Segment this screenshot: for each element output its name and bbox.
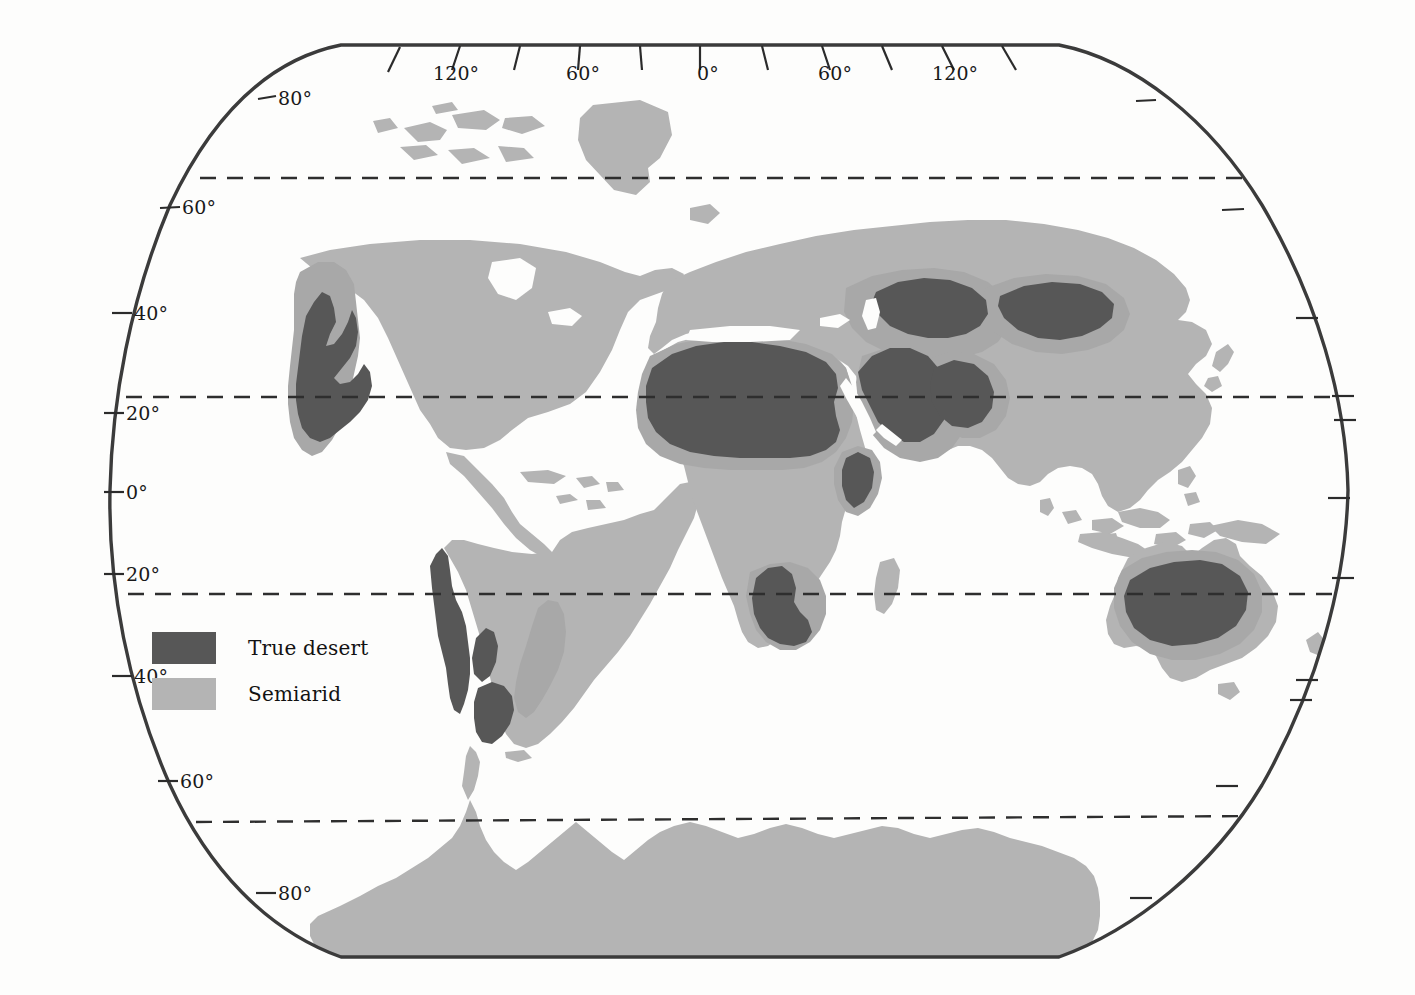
antarctic-circle-line [196, 816, 1268, 822]
legend-label-true-desert: True desert [248, 636, 369, 660]
legend-label-semiarid: Semiarid [248, 682, 341, 706]
world-desert-map-figure: 120° 60° 0° 60° 120° 80° 60° 40° 20° 0° … [0, 0, 1415, 995]
map-canvas [0, 0, 1415, 995]
landmass-madagascar [874, 558, 900, 614]
lon-tick [388, 47, 400, 72]
landmass-japan [1204, 344, 1234, 392]
latitude-label-s20: 20° [126, 563, 160, 585]
true-desert-north-america [296, 292, 372, 442]
map-legend: True desert Semiarid [152, 630, 369, 722]
longitude-label-0: 0° [697, 62, 719, 84]
true-desert-swatch [152, 632, 216, 664]
latitude-label-equator: 0° [126, 481, 148, 503]
latitude-ticks-right [1130, 100, 1356, 898]
landmass-iceland [690, 204, 720, 224]
map-shape-layer [126, 100, 1346, 958]
longitude-label-60w: 60° [566, 62, 600, 84]
arctic-islands [373, 102, 545, 164]
antarctic-peninsula [462, 746, 480, 800]
latitude-label-n40: 40° [134, 302, 168, 324]
semiarid-swatch [152, 678, 216, 710]
landmass-tasmania [1218, 682, 1240, 700]
lon-tick [514, 46, 520, 70]
lon-tick [1002, 46, 1016, 70]
lat-tick-n80 [258, 96, 276, 99]
latitude-label-s80: 80° [278, 882, 312, 904]
lon-tick [640, 46, 642, 70]
lat-tick-right [1136, 100, 1156, 101]
lat-tick-n60 [160, 207, 180, 208]
landmass-caribbean [520, 470, 624, 510]
true-desert-sahara [646, 342, 840, 458]
latitude-label-n80: 80° [278, 87, 312, 109]
longitude-label-120e: 120° [932, 62, 978, 84]
longitude-label-120w: 120° [433, 62, 479, 84]
lon-tick [882, 46, 892, 70]
latitude-label-n60: 60° [182, 196, 216, 218]
lat-tick-right [1222, 209, 1244, 210]
landmass-sri-lanka [1040, 498, 1054, 516]
latitude-label-s60: 60° [180, 770, 214, 792]
longitude-label-60e: 60° [818, 62, 852, 84]
landmass-antarctica [310, 800, 1100, 958]
landmass-greenland [578, 100, 672, 195]
lon-tick [762, 46, 768, 70]
semiarid-regions [300, 100, 1338, 958]
legend-item-semiarid: Semiarid [152, 676, 369, 712]
landmass-philippines [1178, 466, 1200, 506]
legend-item-true-desert: True desert [152, 630, 369, 666]
latitude-label-n20: 20° [126, 402, 160, 424]
landmass-tierra-del-fuego [505, 750, 532, 762]
